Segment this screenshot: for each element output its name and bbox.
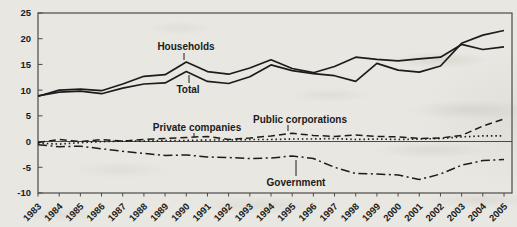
svg-text:1991: 1991 — [190, 200, 213, 223]
svg-text:1995: 1995 — [275, 200, 298, 223]
svg-text:1999: 1999 — [360, 201, 383, 224]
scanned-chart-figure: 2520151050-5-101983198419851986198719881… — [0, 0, 517, 227]
label-public-corporations: Public corporations — [253, 114, 347, 125]
svg-text:-10: -10 — [17, 187, 31, 198]
series-total — [38, 31, 504, 96]
label-total: Total — [176, 84, 199, 95]
svg-text:1983: 1983 — [21, 201, 44, 224]
svg-text:1996: 1996 — [296, 201, 319, 224]
svg-text:2003: 2003 — [444, 201, 467, 224]
svg-text:1989: 1989 — [148, 201, 171, 224]
label-government: Government — [267, 177, 327, 188]
svg-text:2004: 2004 — [466, 200, 489, 223]
svg-text:1987: 1987 — [105, 201, 128, 224]
savings-by-sector-line-chart: 2520151050-5-101983198419851986198719881… — [0, 0, 517, 227]
svg-text:25: 25 — [20, 7, 31, 18]
svg-text:2002: 2002 — [423, 201, 446, 224]
svg-text:1990: 1990 — [169, 201, 192, 224]
svg-text:2001: 2001 — [402, 200, 425, 223]
label-private-companies: Private companies — [153, 122, 242, 133]
svg-text:15: 15 — [20, 59, 31, 70]
svg-text:10: 10 — [20, 85, 31, 96]
chart-series — [38, 31, 504, 180]
svg-text:5: 5 — [26, 110, 32, 121]
svg-text:0: 0 — [26, 136, 31, 147]
svg-text:2000: 2000 — [381, 201, 404, 224]
svg-text:1993: 1993 — [233, 201, 256, 224]
svg-text:1985: 1985 — [63, 200, 86, 223]
series-annotations: Households Total Private companies Publi… — [153, 41, 348, 188]
series-government — [38, 145, 504, 180]
svg-text:1984: 1984 — [42, 200, 65, 223]
svg-text:1986: 1986 — [84, 201, 107, 224]
svg-text:1997: 1997 — [317, 201, 340, 224]
svg-text:20: 20 — [20, 33, 31, 44]
svg-text:2005: 2005 — [487, 200, 510, 223]
svg-text:1994: 1994 — [254, 200, 277, 223]
svg-text:1998: 1998 — [338, 201, 361, 224]
svg-text:-5: -5 — [23, 162, 32, 173]
svg-text:1992: 1992 — [211, 201, 234, 224]
series-households — [38, 44, 504, 96]
svg-text:1988: 1988 — [127, 201, 150, 224]
label-households: Households — [157, 41, 215, 52]
